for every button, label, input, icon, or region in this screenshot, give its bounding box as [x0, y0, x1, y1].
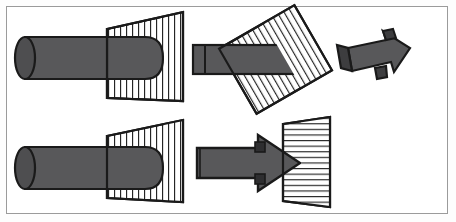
- panel-bottom-right: [197, 110, 333, 214]
- cylinder-top: [15, 37, 163, 79]
- block-arrow-body: [348, 31, 410, 72]
- figure-canvas: [0, 0, 456, 222]
- panel-top-middle: [193, 5, 332, 113]
- arrow-notch-lower: [255, 174, 265, 184]
- block-arrow-tab: [375, 66, 387, 79]
- block-arrow-head-bevel: [383, 29, 396, 40]
- panel-top-right: [337, 29, 410, 79]
- diagram-svg: [0, 0, 456, 222]
- panel-bottom-left: [15, 112, 186, 212]
- cylinder-end-cap-top: [15, 37, 35, 79]
- trapezoid-right-front-stripes: [301, 110, 333, 214]
- arrow-notch-upper: [255, 142, 265, 152]
- panel-top-left: [15, 5, 186, 110]
- cylinder-end-cap-bottom: [15, 147, 35, 189]
- cylinder-bottom: [15, 147, 163, 189]
